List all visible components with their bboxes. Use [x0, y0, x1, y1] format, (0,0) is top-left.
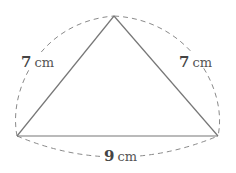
right-side-label: 7cm [179, 53, 212, 71]
base-label: 9cm [104, 147, 137, 165]
left-side-label: 7cm [21, 53, 54, 71]
triangle-diagram: 7cm 7cm 9cm [0, 0, 236, 173]
right-side [114, 16, 218, 136]
left-side [17, 16, 114, 136]
